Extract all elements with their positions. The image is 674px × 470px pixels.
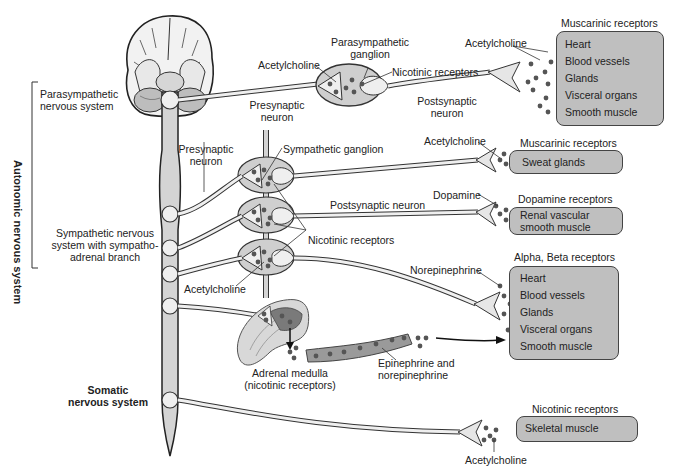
target-box-sweat-glands: Sweat glands (509, 150, 623, 174)
organ-smooth-muscle: Smooth muscle (565, 106, 637, 118)
organ-glands: Glands (565, 72, 598, 84)
target-4-receptor: Nicotinic receptors (532, 403, 618, 415)
autonomic-nervous-system-label: Autonomic nervous system (12, 160, 24, 304)
sympathetic-ganglia (238, 157, 294, 275)
organ-visceral-organs: Visceral organs (520, 323, 592, 335)
organ-smooth-muscle: Smooth muscle (520, 340, 592, 352)
presynaptic-neuron-para-label: Presynaptic neuron (242, 99, 312, 123)
nicotinic-receptors-para-label: Nicotinic receptors (392, 66, 478, 78)
autonomic-bracket (32, 82, 38, 268)
organ-skeletal-muscle: Skeletal muscle (525, 422, 599, 434)
adrenal-medulla-label: Adrenal medulla (nicotinic receptors) (240, 367, 340, 391)
target-3-receptor: Alpha, Beta receptors (514, 251, 615, 263)
somatic-label: Somatic nervous system (58, 384, 158, 408)
organ-visceral-organs: Visceral organs (565, 89, 637, 101)
postsynaptic-neuron-symp-label: Postsynaptic neuron (330, 199, 425, 211)
target-1-receptor: Muscarinic receptors (520, 137, 617, 149)
target-0-receptor: Muscarinic receptors (561, 17, 658, 29)
nicotinic-receptors-symp-label: Nicotinic receptors (308, 234, 394, 246)
nervous-system-diagram: Autonomic nervous system Parasympathetic… (0, 0, 674, 470)
acetylcholine-symp-ganglion-label: Acetylcholine (184, 283, 246, 295)
target-box-skeletal-muscle: Skeletal muscle (516, 416, 638, 442)
target-box-renal-vascular: Renal vascular smooth muscle (509, 207, 623, 235)
target-box-muscarinic-para: Heart Blood vessels Glands Visceral orga… (556, 31, 664, 126)
parasympathetic-ganglion-label: Parasympathetic ganglion (330, 36, 410, 60)
organ-blood-vessels: Blood vessels (565, 55, 630, 67)
postsynaptic-neuron-para-label: Postsynaptic neuron (412, 95, 482, 119)
acetylcholine-sweat-label: Acetylcholine (424, 135, 486, 147)
organ-heart: Heart (520, 272, 546, 284)
sympathetic-label: Sympathetic nervous system with sympatho… (50, 227, 160, 263)
organ-glands: Glands (520, 306, 553, 318)
adrenal-gland-icon (237, 300, 308, 365)
epinephrine-norepinephrine-label: Epinephrine and norepinephrine (378, 357, 454, 381)
parasympathetic-ganglion (316, 64, 388, 106)
presynaptic-neuron-symp-label: Presynaptic neuron (176, 143, 236, 167)
organ-renal-smooth-muscle: smooth muscle (520, 221, 591, 233)
target-2-receptor: Dopamine receptors (518, 193, 613, 205)
target-box-alpha-beta: Heart Blood vessels Glands Visceral orga… (509, 266, 619, 360)
acetylcholine-para-target-label: Acetylcholine (465, 37, 527, 49)
dopamine-label: Dopamine (433, 189, 481, 201)
parasympathetic-label: Parasympathetic nervous system (40, 88, 118, 112)
sympathetic-ganglion-label: Sympathetic ganglion (283, 143, 383, 155)
organ-renal-vascular: Renal vascular (520, 209, 589, 221)
organ-sweat-glands: Sweat glands (522, 156, 585, 168)
acetylcholine-para-ganglion-label: Acetylcholine (258, 59, 320, 71)
norepinephrine-label: Norepinephrine (410, 264, 482, 276)
acetylcholine-somatic-label: Acetylcholine (465, 454, 527, 466)
organ-blood-vessels: Blood vessels (520, 289, 585, 301)
organ-heart: Heart (565, 38, 591, 50)
